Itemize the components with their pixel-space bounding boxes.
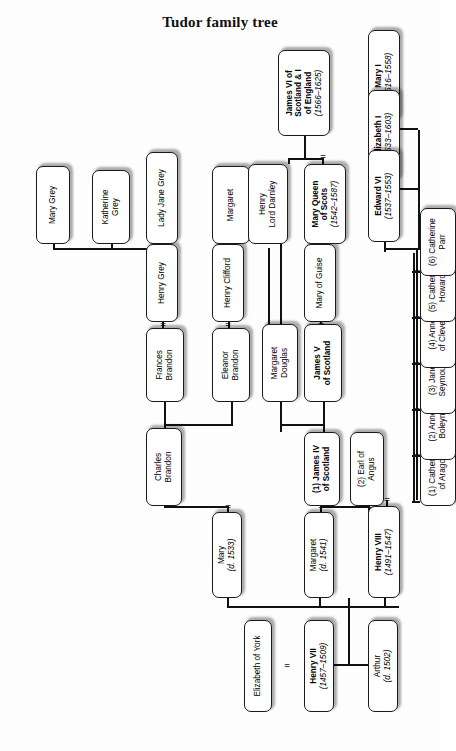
person-name: Henry Grey <box>157 262 167 304</box>
person-node-james6[interactable]: James VI of Scotland & I of England(1566… <box>278 50 330 136</box>
person-name: (1) James IV of Scotland <box>312 445 331 493</box>
person-name: Mary <box>217 545 227 563</box>
person-dates: (1542–1587) <box>330 180 340 226</box>
connector-line <box>280 424 324 426</box>
connector-line <box>111 244 113 250</box>
person-node-henrygrey[interactable]: Henry Grey <box>146 244 178 322</box>
person-name: Mary Queen of Scots <box>311 180 330 227</box>
person-name: Frances Brandon <box>155 349 174 380</box>
family-tree-diagram: ============== Henry VII(1457–1509)Eliza… <box>16 26 436 726</box>
person-name: Lady Jane Grey <box>157 169 167 227</box>
person-node-mary1533[interactable]: Mary(d. 1533) <box>212 512 242 598</box>
connector-line <box>384 248 418 250</box>
connector-line <box>334 664 348 666</box>
person-name: James V of Scotland <box>313 340 332 385</box>
person-node-maryqos[interactable]: Mary Queen of Scots(1542–1587) <box>304 164 346 244</box>
person-node-margaret2[interactable]: Margaret <box>212 166 250 244</box>
connector-line <box>280 402 282 426</box>
connector-line <box>416 250 418 500</box>
person-name: James VI of Scotland & I of England <box>285 69 314 116</box>
marriage-symbol-h7-ey: = <box>284 661 290 671</box>
person-name: Elizabeth of York <box>253 635 263 696</box>
connector-line <box>228 322 230 328</box>
person-node-henry8[interactable]: Henry VIII(1491–1547) <box>368 506 400 598</box>
person-node-charlesbrandon[interactable]: Charles Brandon <box>146 428 182 506</box>
person-name: Arthur <box>373 654 383 676</box>
person-node-arthur[interactable]: Arthur(d. 1502) <box>368 620 398 712</box>
person-dates: (1537–1553) <box>384 172 394 218</box>
person-name: (6) Catherine Parr <box>428 218 447 266</box>
person-node-katherinegrey[interactable]: Katherine Grey <box>92 170 130 244</box>
person-node-margdouglas[interactable]: Margaret Douglas <box>262 324 298 402</box>
person-name: Edward VI <box>374 176 384 216</box>
person-node-wife6[interactable]: (6) Catherine Parr <box>420 208 456 276</box>
person-node-darnley[interactable]: Henry Lord Darnley <box>248 164 288 244</box>
connector-line <box>304 136 306 158</box>
person-name: Henry VII <box>309 648 319 684</box>
person-name: Henry Clifford <box>223 258 233 308</box>
person-name: Charles Brandon <box>154 451 173 482</box>
person-name: Margaret Douglas <box>270 346 289 379</box>
person-dates: (d. 1502) <box>383 649 393 682</box>
person-name: Henry VIII <box>374 533 384 571</box>
person-name: (3) Jane Seymour <box>428 363 447 396</box>
connector-line <box>231 402 233 426</box>
person-node-henryclifford[interactable]: Henry Clifford <box>212 244 244 322</box>
person-name: Mary I <box>374 64 384 88</box>
person-node-margaret[interactable]: Margaret(d. 1541) <box>304 512 334 598</box>
person-node-james5[interactable]: James V of Scotland <box>304 324 342 402</box>
person-name: Mary of Guise <box>315 257 325 308</box>
connector-line <box>323 402 325 432</box>
person-name: Mary Grey <box>48 185 58 223</box>
connector-line <box>320 506 368 508</box>
person-dates: (1457–1509) <box>319 642 329 688</box>
connector-line <box>227 606 399 608</box>
person-node-francesbrandon[interactable]: Frances Brandon <box>146 328 184 402</box>
connector-line <box>162 322 164 328</box>
person-dates: (d. 1533) <box>227 538 237 571</box>
person-node-edward6[interactable]: Edward VI(1537–1553) <box>368 150 400 242</box>
person-node-maryguise[interactable]: Mary of Guise <box>304 244 336 322</box>
person-dates: (1566–1625) <box>314 69 324 115</box>
person-dates: (1491–1547) <box>384 528 394 574</box>
connector-line <box>164 402 166 426</box>
connector-line <box>384 598 386 608</box>
person-node-james4[interactable]: (1) James IV of Scotland <box>304 432 340 506</box>
connector-line <box>413 253 415 503</box>
person-dates: (d. 1541) <box>319 538 329 571</box>
connector-line <box>268 248 270 324</box>
person-node-angus[interactable]: (2) Earl of Angus <box>350 432 384 506</box>
connector-line <box>288 158 290 164</box>
connector-line <box>53 244 55 250</box>
person-node-ladyjane[interactable]: Lady Jane Grey <box>146 152 178 244</box>
person-name: Eleanor Brandon <box>221 349 240 380</box>
connector-line <box>386 500 388 506</box>
connector-line <box>164 506 227 508</box>
person-name: Margaret <box>309 538 319 571</box>
person-name: (2) Earl of Angus <box>357 451 376 487</box>
person-name: (2) Anne Boleyn <box>428 410 447 441</box>
person-node-elizyork[interactable]: Elizabeth of York <box>244 620 272 712</box>
connector-line <box>227 506 229 512</box>
connector-line <box>280 244 282 324</box>
person-node-eleanorbrandon[interactable]: Eleanor Brandon <box>212 328 250 402</box>
connector-line <box>322 158 324 164</box>
person-name: Katherine Grey <box>101 189 120 224</box>
person-node-marygrey[interactable]: Mary Grey <box>36 166 70 244</box>
connector-line <box>227 598 229 608</box>
connector-line <box>288 158 322 160</box>
person-name: Henry Lord Darnley <box>258 180 277 227</box>
connector-line <box>164 424 231 426</box>
person-node-henry7[interactable]: Henry VII(1457–1509) <box>304 620 334 712</box>
connector-line <box>384 250 386 252</box>
person-name: Margaret <box>226 188 236 221</box>
connector-line <box>319 598 321 608</box>
